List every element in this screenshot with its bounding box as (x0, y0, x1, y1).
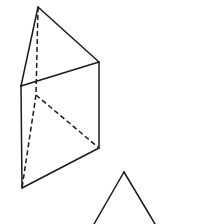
partial-triangle (94, 172, 155, 224)
edge-apex_top-top_right (38, 7, 99, 62)
edge-apex_top-mid_left (21, 7, 38, 86)
edge-apex-bottom_right_exit (124, 172, 155, 224)
edge-mid_left-top_right (21, 62, 99, 86)
hidden-edge-hidden_inner-bottom_left (22, 95, 36, 188)
shapes-layer (21, 7, 155, 224)
triangular-prism (21, 7, 99, 188)
edge-mid_left-bottom_left (21, 86, 22, 188)
edge-apex-bottom_left_exit (94, 172, 124, 224)
hidden-edge-hidden_inner-bottom_right (36, 95, 99, 148)
geometry-diagram (0, 0, 205, 224)
edge-bottom_left-bottom_right (22, 148, 99, 188)
